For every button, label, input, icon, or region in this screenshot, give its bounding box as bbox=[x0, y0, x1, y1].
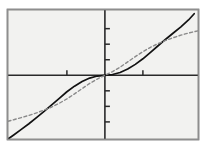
plot-figure bbox=[0, 0, 206, 150]
cartesian-plot bbox=[0, 0, 206, 150]
